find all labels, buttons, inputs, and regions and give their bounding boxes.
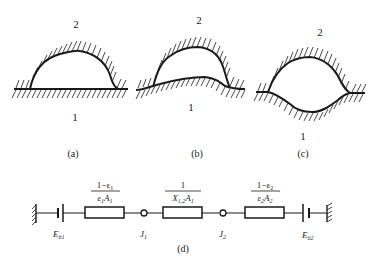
node-j2 bbox=[220, 210, 226, 216]
surface-2-dome bbox=[268, 57, 350, 93]
resistor-1-numerator: 1−ε1 bbox=[97, 180, 113, 191]
hatch-surface-2 bbox=[16, 41, 126, 88]
resistor-1-denominator: ε1A1 bbox=[97, 193, 112, 204]
radiation-exchange-figure: 2 1 (a) 2 1 (b) bbox=[0, 0, 379, 263]
panel-b-caption: (b) bbox=[191, 148, 203, 160]
panel-c-label-2: 2 bbox=[317, 26, 323, 38]
panel-b bbox=[136, 37, 245, 99]
panel-c-caption: (c) bbox=[297, 148, 308, 160]
resistor-surface-2 bbox=[245, 207, 284, 218]
resistor-surface-1 bbox=[85, 207, 124, 218]
panel-a-label-2: 2 bbox=[73, 18, 79, 30]
resistor-2-numerator: 1 bbox=[181, 180, 186, 190]
panel-b-label-2: 2 bbox=[196, 14, 202, 26]
source-eb1-label: Eb1 bbox=[52, 229, 65, 240]
hatch-surface-2 bbox=[258, 47, 366, 92]
resistor-3-denominator: ε2A2 bbox=[257, 193, 272, 204]
resistor-space bbox=[163, 207, 202, 218]
ground-right-hatch bbox=[327, 203, 332, 222]
node-j1 bbox=[141, 210, 147, 216]
resistor-3-numerator: 1−ε2 bbox=[257, 180, 273, 191]
hatch-surface-1 bbox=[136, 78, 245, 99]
source-eb2-label: Eb2 bbox=[301, 230, 314, 241]
node-j2-label: J2 bbox=[219, 229, 226, 240]
hatch-surface-1 bbox=[12, 90, 126, 98]
panel-d-network bbox=[32, 191, 332, 225]
surface-2-dome bbox=[30, 51, 118, 89]
node-j1-label: J1 bbox=[140, 229, 147, 240]
panel-a-caption: (a) bbox=[67, 148, 78, 160]
panel-d-caption: (d) bbox=[177, 243, 189, 255]
panel-c bbox=[254, 47, 366, 121]
panel-a bbox=[12, 41, 128, 98]
resistor-2-denominator: X1,2A1 bbox=[171, 193, 194, 204]
panel-a-label-1: 1 bbox=[72, 111, 78, 123]
panel-c-label-1: 1 bbox=[300, 130, 306, 142]
hatch-surface-1 bbox=[254, 93, 363, 121]
panel-b-label-1: 1 bbox=[188, 101, 194, 113]
